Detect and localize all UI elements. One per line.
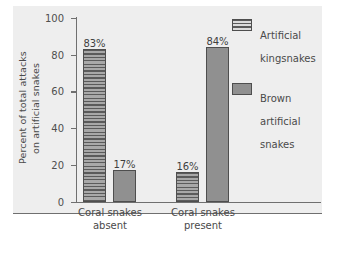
legend-label-kingsnakes-line-1: Artificial <box>260 30 316 42</box>
y-axis-tick-40: 40 <box>71 128 76 129</box>
legend-label-kingsnakes: Artificial kingsnakes <box>260 18 316 76</box>
y-axis-tick-80: 80 <box>71 55 76 56</box>
y-axis-tick-60: 60 <box>71 91 76 92</box>
x-axis-group-label-coral-present: Coral snakes present <box>171 207 235 232</box>
x-axis-line <box>76 202 321 203</box>
y-axis-tick-label-80: 80 <box>51 49 64 60</box>
plot-area: 0 20 40 60 80 100 83% 17% 16% 84% <box>76 17 246 203</box>
legend-item-kingsnakes: Artificial kingsnakes <box>232 18 327 76</box>
chart-legend: Artificial kingsnakes Brown artificial s… <box>232 18 327 168</box>
figure-bar-chart: Percent of total attacks on artificial s… <box>0 0 341 262</box>
x-axis-group-label-coral-present-line-1: Coral snakes <box>171 207 235 220</box>
legend-swatch-solid-icon <box>232 83 252 95</box>
y-axis-title-line-2: on artificial snakes <box>29 28 43 188</box>
y-axis-tick-100: 100 <box>71 18 76 19</box>
bar-kingsnakes-coral-present: 16% <box>176 172 199 201</box>
legend-label-kingsnakes-line-2: kingsnakes <box>260 53 316 65</box>
bar-label-brown-coral-present: 84% <box>206 36 228 47</box>
bar-kingsnakes-coral-absent: 83% <box>83 49 106 201</box>
legend-label-brown-line-1: Brown <box>260 93 300 105</box>
x-axis-group-label-coral-absent-line-1: Coral snakes <box>78 207 142 220</box>
legend-swatch-striped-icon <box>232 19 252 31</box>
legend-label-brown-line-2: artificial <box>260 116 300 128</box>
legend-item-brown: Brown artificial snakes <box>232 82 327 163</box>
bar-brown-coral-present: 84% <box>206 47 229 201</box>
y-axis-tick-label-20: 20 <box>51 159 64 170</box>
y-axis-tick-label-40: 40 <box>51 123 64 134</box>
y-axis-tick-label-100: 100 <box>45 13 64 24</box>
y-axis-tick-label-60: 60 <box>51 86 64 97</box>
y-axis-title-line-1: Percent of total attacks <box>16 28 30 188</box>
y-axis-title: Percent of total attacks on artificial s… <box>16 28 46 188</box>
legend-label-brown: Brown artificial snakes <box>260 82 300 163</box>
bar-label-kingsnakes-coral-absent: 83% <box>83 38 105 49</box>
y-axis-tick-20: 20 <box>71 165 76 166</box>
y-axis-tick-label-0: 0 <box>58 196 64 207</box>
x-axis-group-label-coral-absent-line-2: absent <box>78 220 142 233</box>
bar-label-kingsnakes-coral-present: 16% <box>176 161 198 172</box>
x-axis-group-label-coral-absent: Coral snakes absent <box>78 207 142 232</box>
y-axis-line <box>76 17 77 203</box>
bar-label-brown-coral-absent: 17% <box>113 159 135 170</box>
x-axis-group-label-coral-present-line-2: present <box>171 220 235 233</box>
legend-label-brown-line-3: snakes <box>260 139 300 151</box>
y-axis-tick-0: 0 <box>71 202 76 203</box>
bar-brown-coral-absent: 17% <box>113 170 136 201</box>
